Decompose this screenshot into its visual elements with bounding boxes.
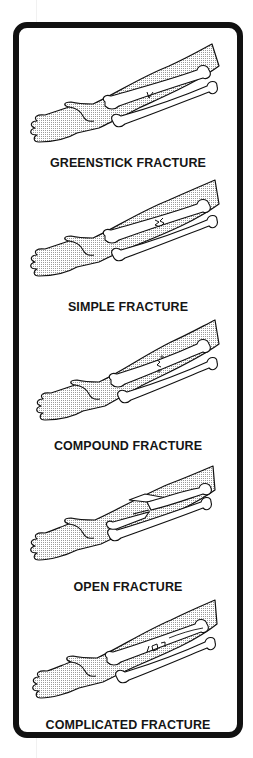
fracture-label: GREENSTICK FRACTURE bbox=[19, 156, 237, 170]
fracture-label: SIMPLE FRACTURE bbox=[19, 300, 237, 314]
fracture-label: COMPLICATED FRACTURE bbox=[19, 718, 237, 732]
fracture-label: COMPOUND FRACTURE bbox=[19, 439, 237, 453]
fracture-types-panel: GREENSTICK FRACTURE SIMPLE FRACTURE bbox=[13, 22, 243, 738]
forearm-open-illustration bbox=[19, 464, 237, 574]
forearm-greenstick-illustration bbox=[19, 36, 237, 146]
forearm-complicated-illustration bbox=[19, 598, 237, 708]
forearm-compound-illustration bbox=[19, 316, 237, 426]
forearm-simple-illustration bbox=[19, 178, 237, 288]
fracture-label: OPEN FRACTURE bbox=[19, 580, 237, 594]
